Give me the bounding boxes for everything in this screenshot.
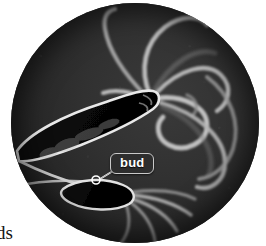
micrograph-vignette <box>11 3 259 243</box>
figure-screenshot: bud ds <box>0 0 266 246</box>
bud-annotation-callout: bud <box>110 153 154 174</box>
micrograph-circle <box>11 3 259 243</box>
bud-annotation-label: bud <box>120 156 144 170</box>
caption-fragment: ds <box>0 222 13 244</box>
